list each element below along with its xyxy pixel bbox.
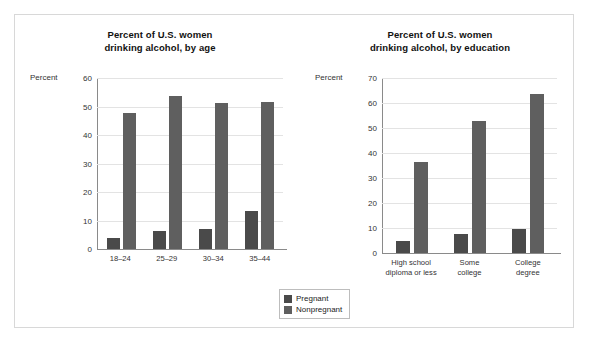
bar-nonpregnant — [123, 113, 136, 249]
category-label-line: College — [515, 258, 541, 268]
bar-pregnant — [396, 241, 410, 253]
legend-label-nonpregnant: Nonpregnant — [296, 305, 342, 314]
y-axis-label-by-age: Percent — [30, 73, 58, 82]
chart-title-line-1: Percent of U.S. women — [305, 29, 575, 42]
y-axis-tick-label: 20 — [368, 199, 377, 208]
y-axis-tick-label: 30 — [83, 159, 92, 168]
bar-nonpregnant — [169, 96, 182, 249]
y-axis-label-by-education: Percent — [315, 73, 343, 82]
bar-nonpregnant — [414, 162, 428, 253]
bar-nonpregnant — [472, 121, 486, 253]
legend-swatch-pregnant — [284, 295, 292, 303]
plot-area-by-age: 0102030405060 18–2425–2930–3435–44 — [97, 79, 283, 250]
y-axis-tick-label: 60 — [368, 99, 377, 108]
gridline: 0 — [382, 253, 557, 254]
chart-panel-by-education: Percent of U.S. women drinking alcohol, … — [305, 15, 575, 327]
y-axis-tick-label: 40 — [83, 131, 92, 140]
legend-label-pregnant: Pregnant — [296, 294, 328, 303]
category-label-line: degree — [515, 268, 541, 278]
chart-title-line-2: drinking alcohol, by education — [305, 42, 575, 55]
category-label-line: Some — [457, 258, 481, 268]
legend-item-nonpregnant: Nonpregnant — [284, 304, 342, 315]
chart-legend: PregnantNonpregnant — [279, 289, 350, 319]
y-axis-tick-label: 0 — [373, 249, 377, 258]
bar-nonpregnant — [215, 103, 228, 249]
category-label-line: 35–44 — [249, 254, 270, 264]
category-label-line: college — [457, 268, 481, 278]
x-axis-category-label: 30–34 — [203, 254, 224, 264]
bar-pregnant — [153, 231, 166, 249]
plot-area-by-education: 010203040506070 High schooldiploma or le… — [382, 79, 557, 254]
x-axis-category-label: 18–24 — [110, 254, 131, 264]
y-axis-tick-label: 70 — [368, 74, 377, 83]
y-axis-tick-label: 0 — [88, 245, 92, 254]
category-label-line: 18–24 — [110, 254, 131, 264]
y-axis-tick-label: 50 — [83, 102, 92, 111]
bar-pregnant — [512, 229, 526, 253]
chart-title-by-age: Percent of U.S. women drinking alcohol, … — [15, 29, 305, 54]
y-axis-tick-label: 60 — [83, 74, 92, 83]
chart-title-by-education: Percent of U.S. women drinking alcohol, … — [305, 29, 575, 54]
x-axis-category-label: Collegedegree — [515, 258, 541, 277]
bar-pregnant — [107, 238, 120, 249]
y-axis-tick-label: 10 — [368, 224, 377, 233]
chart-title-line-1: Percent of U.S. women — [15, 29, 305, 42]
legend-swatch-nonpregnant — [284, 306, 292, 314]
category-label-line: High school — [386, 258, 437, 268]
legend-item-pregnant: Pregnant — [284, 293, 342, 304]
y-axis-tick-label: 50 — [368, 124, 377, 133]
x-axis-category-label: Somecollege — [457, 258, 481, 277]
chart-title-line-2: drinking alcohol, by age — [15, 42, 305, 55]
bar-pregnant — [245, 211, 258, 249]
y-axis-tick-label: 30 — [368, 174, 377, 183]
bar-group-container-by-education — [383, 79, 557, 253]
category-label-line: 25–29 — [156, 254, 177, 264]
category-label-line: 30–34 — [203, 254, 224, 264]
y-axis-tick-label: 40 — [368, 149, 377, 158]
gridline: 0 — [97, 249, 283, 250]
chart-panel-by-age: Percent of U.S. women drinking alcohol, … — [15, 15, 305, 327]
bar-group-container-by-age — [98, 79, 283, 249]
category-label-line: diploma or less — [386, 268, 437, 278]
bar-nonpregnant — [261, 102, 274, 249]
y-axis-tick-label: 20 — [83, 188, 92, 197]
x-axis-category-label: 35–44 — [249, 254, 270, 264]
bar-pregnant — [199, 229, 212, 249]
x-axis-category-label: 25–29 — [156, 254, 177, 264]
x-axis-category-label: High schooldiploma or less — [386, 258, 437, 277]
figure-frame: Percent of U.S. women drinking alcohol, … — [14, 14, 574, 328]
bar-nonpregnant — [530, 94, 544, 253]
y-axis-tick-label: 10 — [83, 216, 92, 225]
bar-pregnant — [454, 234, 468, 253]
